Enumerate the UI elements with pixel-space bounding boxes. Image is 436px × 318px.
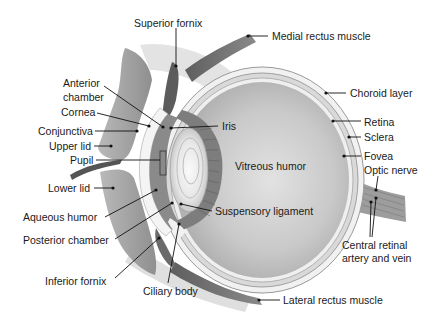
label-lower-lid: Lower lid	[48, 182, 90, 194]
label-cornea: Cornea	[61, 106, 96, 118]
label-upper-lid: Upper lid	[49, 140, 91, 152]
label-medial-rectus-muscle: Medial rectus muscle	[272, 30, 371, 42]
label-inferior-fornix: Inferior fornix	[45, 275, 107, 287]
label-choroid-layer: Choroid layer	[350, 87, 413, 99]
label-anterior-chamber-line2: chamber	[63, 91, 104, 103]
label-superior-fornix: Superior fornix	[134, 17, 203, 29]
label-vitreous-humor: Vitreous humor	[235, 160, 307, 172]
label-lateral-rectus-muscle: Lateral rectus muscle	[283, 294, 383, 306]
label-central-retinal-line1: Central retinal	[342, 239, 407, 251]
label-central-retinal-line2: artery and vein	[342, 252, 412, 264]
label-posterior-chamber: Posterior chamber	[23, 234, 109, 246]
label-ciliary-body: Ciliary body	[143, 285, 199, 297]
label-sclera: Sclera	[364, 131, 394, 143]
label-conjunctiva: Conjunctiva	[38, 125, 93, 137]
label-optic-nerve: Optic nerve	[364, 164, 418, 176]
label-retina: Retina	[364, 116, 395, 128]
eye-anatomy-diagram: Superior fornix Medial rectus muscle Ant…	[0, 0, 436, 318]
label-suspensory-ligament: Suspensory ligament	[215, 205, 313, 217]
lens	[170, 128, 208, 212]
label-pupil: Pupil	[70, 154, 93, 166]
label-aqueous-humor: Aqueous humor	[23, 211, 98, 223]
label-anterior-chamber-line1: Anterior	[63, 77, 100, 89]
label-fovea: Fovea	[364, 150, 393, 162]
label-iris: Iris	[222, 120, 236, 132]
